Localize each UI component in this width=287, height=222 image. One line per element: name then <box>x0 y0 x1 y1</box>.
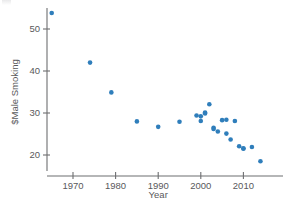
data-point <box>88 60 93 65</box>
male-smoking-scatter-chart: 2030405019701980199020002010Year$Male Sm… <box>0 0 287 222</box>
data-point <box>49 11 54 16</box>
data-point <box>224 131 229 136</box>
data-point <box>109 90 114 95</box>
x-axis-tick-label: 2000 <box>190 180 211 191</box>
data-point <box>228 137 233 142</box>
y-axis-tick-label: 50 <box>29 23 40 34</box>
data-point <box>211 127 216 132</box>
data-point <box>199 114 204 119</box>
data-point <box>135 119 140 124</box>
y-axis-tick-label: 30 <box>29 107 40 118</box>
x-axis-title: Year <box>149 189 168 200</box>
data-point <box>220 118 225 123</box>
data-point <box>156 125 161 130</box>
data-point-group <box>49 11 262 164</box>
y-axis-tick-label: 20 <box>29 149 40 160</box>
x-axis-tick-label: 1980 <box>105 180 126 191</box>
data-point <box>207 102 212 107</box>
y-axis-tick-label: 40 <box>29 65 40 76</box>
data-point <box>177 120 182 125</box>
data-point <box>216 129 221 134</box>
data-point <box>250 145 255 150</box>
y-axis-title: $Male Smoking <box>9 59 20 124</box>
data-point <box>233 119 238 124</box>
data-point <box>258 159 263 164</box>
data-point <box>241 146 246 151</box>
data-point <box>203 111 208 116</box>
x-axis-tick-label: 1970 <box>62 180 83 191</box>
data-point <box>224 117 229 122</box>
data-point <box>237 144 242 149</box>
x-axis-tick-label: 2010 <box>233 180 254 191</box>
data-point <box>194 113 199 118</box>
scatter-plot-figure: 2030405019701980199020002010Year$Male Sm… <box>0 0 287 222</box>
data-point <box>199 119 204 124</box>
